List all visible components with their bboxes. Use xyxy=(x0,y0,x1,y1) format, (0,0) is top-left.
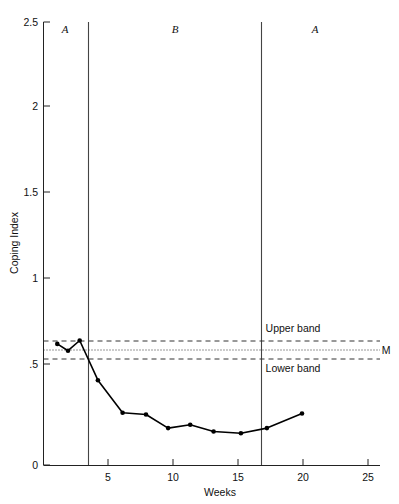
y-tick-label-0: 0 xyxy=(32,459,38,471)
data-point xyxy=(96,378,101,383)
data-point xyxy=(265,426,270,431)
y-tick-label-1-5: 1.5 xyxy=(23,186,38,198)
phase-label-a2: A xyxy=(311,23,319,35)
data-point xyxy=(166,426,171,431)
x-tick-label-25: 25 xyxy=(362,471,374,483)
data-point xyxy=(239,431,244,436)
data-point xyxy=(77,338,82,343)
y-axis-title: Coping Index xyxy=(8,211,20,274)
phase-label-a1: A xyxy=(61,23,69,35)
y-tick-label-1: 1 xyxy=(32,272,38,284)
mean-line-label: M xyxy=(382,344,391,356)
data-point xyxy=(55,342,60,347)
x-tick-label-15: 15 xyxy=(232,471,244,483)
lower-band-label: Lower band xyxy=(266,362,321,374)
x-tick-label-20: 20 xyxy=(297,471,309,483)
x-tick-label-5: 5 xyxy=(105,471,111,483)
x-axis-title: Weeks xyxy=(204,486,236,498)
data-point xyxy=(300,411,305,416)
upper-band-label: Upper band xyxy=(266,322,321,334)
y-tick-label-2: 2 xyxy=(32,100,38,112)
data-point xyxy=(120,411,125,416)
coping-index-line xyxy=(57,341,302,434)
x-axis-ticks xyxy=(108,459,368,466)
phase-label-b: B xyxy=(172,23,179,35)
data-point xyxy=(144,412,149,417)
data-point xyxy=(211,429,216,434)
data-point xyxy=(188,422,193,427)
single-case-design-chart: 2.5 2 1.5 1 .5 0 5 10 15 20 25 Weeks Cop… xyxy=(0,0,399,504)
data-point xyxy=(66,348,71,353)
y-axis-ticks xyxy=(44,22,51,465)
y-tick-label-0-5: .5 xyxy=(29,358,38,370)
data-point-group xyxy=(55,338,304,435)
chart-canvas: 2.5 2 1.5 1 .5 0 5 10 15 20 25 Weeks Cop… xyxy=(0,0,399,504)
y-tick-label-2-5: 2.5 xyxy=(23,16,38,28)
x-tick-label-10: 10 xyxy=(167,471,179,483)
